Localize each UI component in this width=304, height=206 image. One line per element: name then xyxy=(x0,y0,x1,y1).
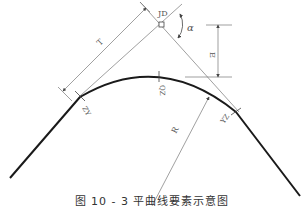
tangent-length-label: T xyxy=(95,37,106,48)
curve-start-label: ZY xyxy=(80,105,92,118)
radius-line xyxy=(152,97,209,206)
intersection-point-label: JD xyxy=(157,9,168,18)
deflection-angle-arc xyxy=(178,14,183,38)
curve-end-label: YZ xyxy=(219,113,232,126)
road-centerline-curve xyxy=(10,77,300,196)
intersection-point-marker xyxy=(159,22,164,27)
horizontal-curve-diagram: T JD α E R ZY QZ YZ xyxy=(0,0,304,206)
radius-label: R xyxy=(170,125,181,135)
curve-middle-label: QZ xyxy=(158,85,166,96)
deflection-angle-label: α xyxy=(187,22,194,33)
figure-caption: 图 10 - 3 平曲线要素示意图 xyxy=(0,192,304,206)
external-distance-label: E xyxy=(208,52,217,58)
